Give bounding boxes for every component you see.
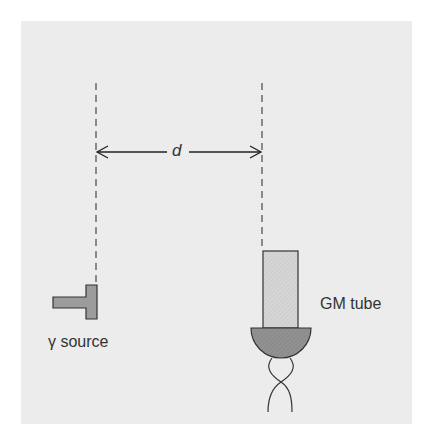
detector-label: GM tube	[320, 295, 381, 313]
distance-label: d	[172, 141, 181, 161]
gm-tube-icon	[251, 251, 311, 412]
source-label: γ source	[48, 333, 108, 351]
gamma-source-icon	[53, 285, 97, 319]
diagram-canvas	[0, 0, 426, 439]
